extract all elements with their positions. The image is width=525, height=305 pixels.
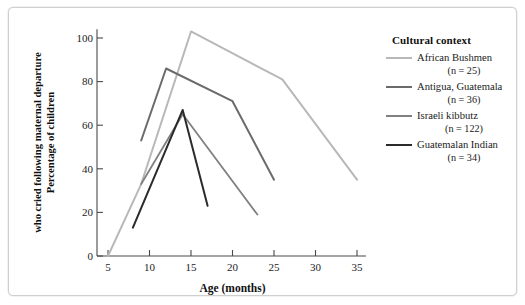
legend-swatch-israeli-kibbutz [386, 115, 412, 117]
legend-item-african-bushmen[interactable]: African Bushmen (n = 25) [386, 52, 516, 76]
y-axis-title-line-1: Percentage of children [45, 92, 56, 194]
legend-label-antigua-guatemala: Antigua, Guatemala [417, 81, 502, 93]
y-axis-tick-label: 0 [88, 250, 94, 262]
series-group [108, 31, 357, 256]
series-line-african-bushmen [108, 31, 357, 256]
legend-n-guatemalan-indian: (n = 34) [412, 152, 516, 163]
legend-n-african-bushmen: (n = 25) [412, 65, 516, 76]
x-axis-title: Age (months) [199, 282, 265, 295]
axis-label-group: Age (months)Percentage of childrenwho cr… [32, 52, 266, 295]
y-axis-tick-label: 100 [77, 32, 94, 44]
legend-n-israeli-kibbutz: (n = 122) [412, 123, 516, 134]
legend-label-guatemalan-indian: Guatemalan Indian [417, 139, 498, 151]
series-line-guatemalan-indian [133, 110, 208, 228]
figure-frame: 0204060801005101520253035 Age (months)Pe… [8, 7, 517, 296]
legend-title: Cultural context [392, 34, 516, 46]
axis-group: 0204060801005101520253035 [77, 29, 367, 273]
y-axis-tick-label: 60 [82, 119, 94, 131]
x-axis-tick-label: 15 [186, 261, 198, 273]
x-axis-tick-label: 5 [105, 261, 111, 273]
legend-swatch-african-bushmen [386, 57, 412, 59]
legend-swatch-guatemalan-indian [386, 144, 412, 146]
x-axis-tick-label: 30 [310, 261, 322, 273]
legend-item-guatemalan-indian[interactable]: Guatemalan Indian (n = 34) [386, 139, 516, 163]
y-axis-tick-label: 20 [82, 206, 94, 218]
legend-swatch-antigua-guatemala [386, 86, 412, 88]
legend-n-antigua-guatemala: (n = 36) [412, 94, 516, 105]
x-axis-tick-label: 35 [352, 261, 364, 273]
legend-item-antigua-guatemala[interactable]: Antigua, Guatemala (n = 36) [386, 81, 516, 105]
x-axis-tick-label: 20 [227, 261, 239, 273]
legend-label-african-bushmen: African Bushmen [417, 52, 492, 64]
y-axis-title-line-2: who cried following maternal departure [32, 52, 43, 233]
legend: Cultural context African Bushmen (n = 25… [386, 34, 516, 168]
x-axis-tick-label: 25 [269, 261, 281, 273]
x-axis-tick-label: 10 [144, 261, 156, 273]
y-axis-tick-label: 80 [82, 75, 94, 87]
y-axis-tick-label: 40 [82, 163, 94, 175]
legend-item-israeli-kibbutz[interactable]: Israeli kibbutz (n = 122) [386, 110, 516, 134]
legend-label-israeli-kibbutz: Israeli kibbutz [417, 110, 478, 122]
